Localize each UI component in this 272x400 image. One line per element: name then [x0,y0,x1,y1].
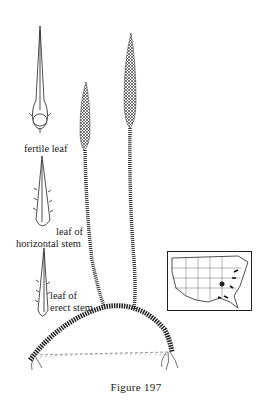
horizontal-stem-leaf-label-line2: horizontal stem [16,238,81,250]
left-erect-stem [80,82,104,306]
erect-stem-leaf-drawing [35,248,50,316]
plant-illustration [0,0,272,400]
fertile-leaf-label: fertile leaf [24,143,67,155]
erect-stem-leaf-label-line1: leaf of [50,290,77,302]
range-map [167,251,252,311]
right-erect-stem [124,33,136,310]
us-map-icon [168,252,251,310]
horizontal-stem-leaf-drawing [33,156,53,226]
horizontal-stem-leaf-label-line1: leaf of [56,226,83,238]
figure-caption: Figure 197 [0,381,272,393]
erect-stem-leaf-label-line2: erect stem [50,302,93,314]
fertile-leaf-drawing [29,26,51,133]
